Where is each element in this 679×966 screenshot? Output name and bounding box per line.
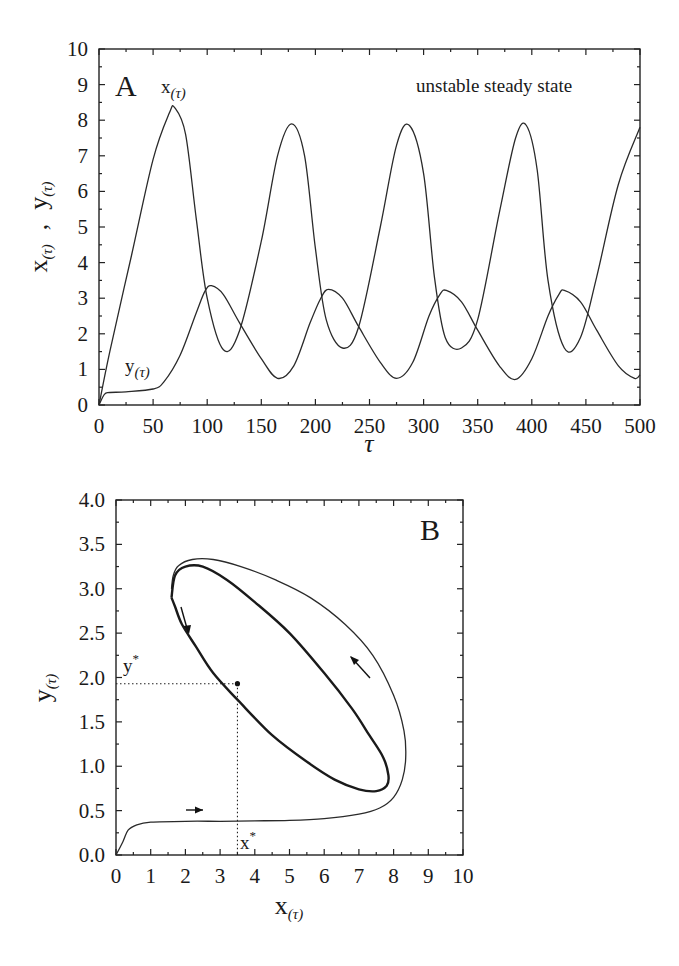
- x-tick-label: 150: [246, 414, 278, 438]
- y-tick-label: 0.0: [79, 843, 105, 867]
- x-tick-label: 3: [215, 864, 226, 888]
- panel-a-y-axis-label: x(τ),y(τ): [24, 181, 56, 272]
- y-tick-label: 10: [67, 37, 88, 61]
- panel-b-letter: B: [420, 513, 440, 546]
- y-tick-label: 5: [78, 215, 89, 239]
- y-tick-label: 0.5: [79, 799, 105, 823]
- x-tick-label: 1: [145, 864, 156, 888]
- y-tick-label: 4.0: [79, 488, 105, 512]
- y-tick-label: 1.0: [79, 754, 105, 778]
- x-tick-label: 0: [111, 864, 122, 888]
- y-tick-label: 8: [78, 108, 89, 132]
- figure-canvas: 050100150200250300350400450500 012345678…: [0, 0, 679, 966]
- x-tick-label: 9: [423, 864, 434, 888]
- x-tick-label: 50: [143, 414, 164, 438]
- x-tick-label: 300: [408, 414, 440, 438]
- y-tick-label: 3: [78, 286, 89, 310]
- y-tick-label: 0: [78, 393, 89, 417]
- y-tick-label: 9: [78, 73, 89, 97]
- limit-cycle: [172, 565, 389, 791]
- arrow-up-left-icon: [350, 656, 370, 678]
- x-tick-label: 0: [94, 414, 105, 438]
- x-tick-label: 2: [180, 864, 191, 888]
- y-tick-label: 1: [78, 357, 89, 381]
- y-curve-label: y(τ): [125, 355, 150, 381]
- x-tick-label: 100: [191, 414, 223, 438]
- y-tick-label: 7: [78, 144, 89, 168]
- panel-b-x-tick-labels: 012345678910: [111, 864, 474, 888]
- panel-a: 050100150200250300350400450500 012345678…: [24, 37, 656, 458]
- y-tick-label: 2.0: [79, 666, 105, 690]
- x-tick-label: 200: [300, 414, 332, 438]
- x-tau-curve: [99, 106, 640, 405]
- x-star-label: x*: [240, 828, 256, 853]
- panel-b-y-tick-labels: 0.00.51.01.52.02.53.03.54.0: [79, 488, 105, 867]
- panel-a-y-tick-labels: 012345678910: [67, 37, 89, 417]
- x-tick-label: 6: [319, 864, 330, 888]
- y-tick-label: 3.0: [79, 577, 105, 601]
- y-tick-label: 1.5: [79, 710, 105, 734]
- x-tick-label: 350: [462, 414, 494, 438]
- y-tau-curve: [99, 286, 640, 405]
- x-tick-label: 4: [250, 864, 261, 888]
- x-tick-label: 7: [354, 864, 365, 888]
- x-tick-label: 8: [388, 864, 399, 888]
- x-tick-label: 10: [453, 864, 474, 888]
- y-star-label: y*: [123, 651, 139, 676]
- panel-a-letter: A: [115, 69, 137, 102]
- svg-text:x(τ),y(τ): x(τ),y(τ): [24, 181, 56, 272]
- panel-b-x-axis-label: x(τ): [275, 891, 303, 923]
- x-tick-label: 5: [284, 864, 295, 888]
- panel-a-ticks: [99, 49, 640, 405]
- steady-state-point: [235, 681, 240, 686]
- svg-text:y(τ): y(τ): [28, 674, 60, 702]
- y-tick-label: 6: [78, 179, 89, 203]
- x-tick-label: 400: [516, 414, 548, 438]
- y-tick-label: 2: [78, 322, 89, 346]
- y-tick-label: 2.5: [79, 621, 105, 645]
- panel-b-y-axis-label: y(τ): [28, 674, 60, 702]
- x-curve-label: x(τ): [161, 76, 186, 102]
- y-tick-label: 3.5: [79, 532, 105, 556]
- panel-a-annotation: unstable steady state: [416, 75, 572, 96]
- transient-trajectory: [116, 559, 406, 855]
- y-tick-label: 4: [78, 251, 89, 275]
- arrow-right-icon: [186, 807, 203, 814]
- panel-a-frame: [99, 49, 640, 405]
- panel-a-x-tick-labels: 050100150200250300350400450500: [94, 414, 656, 438]
- panel-b-ticks: [116, 500, 463, 855]
- x-tick-label: 500: [624, 414, 656, 438]
- panel-b: 012345678910 0.00.51.01.52.02.53.03.54.0…: [28, 488, 474, 923]
- x-tick-label: 450: [570, 414, 602, 438]
- panel-b-frame: [116, 500, 463, 855]
